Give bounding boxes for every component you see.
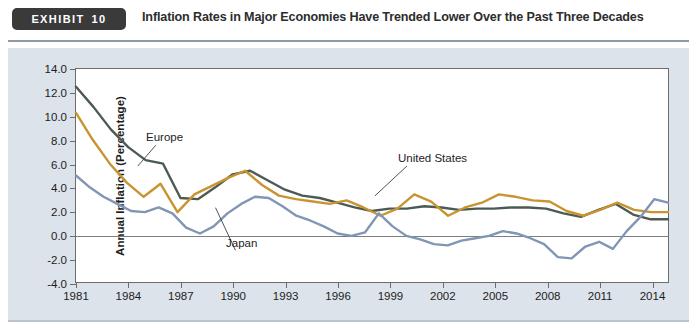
- y-tick-label: 12.0: [45, 87, 76, 99]
- x-tick-mark: [181, 282, 182, 288]
- x-tick-mark: [128, 282, 129, 288]
- x-tick-mark: [548, 282, 549, 288]
- x-tick-label: 1993: [273, 290, 299, 302]
- x-tick-label: 2014: [640, 290, 666, 302]
- plot-area: Annual Inflation (Percentage) 14.012.010…: [75, 68, 669, 283]
- series-label-europe: Europe: [146, 131, 183, 143]
- x-tick-label: 1987: [168, 290, 194, 302]
- y-tick-label: -2.0: [47, 254, 76, 266]
- x-tick-mark: [600, 282, 601, 288]
- x-tick-mark: [443, 282, 444, 288]
- x-tick-mark: [653, 282, 654, 288]
- leader-line-united-states: [375, 166, 407, 196]
- x-tick-label: 1981: [63, 290, 89, 302]
- series-label-japan: Japan: [226, 237, 257, 249]
- y-tick-label: 2.0: [51, 206, 76, 218]
- y-tick-label: 4.0: [51, 182, 76, 194]
- x-tick-label: 2005: [482, 290, 508, 302]
- y-tick-label: 14.0: [45, 63, 76, 75]
- panel-bottom-rule: [8, 320, 689, 322]
- x-tick-label: 1984: [116, 290, 142, 302]
- y-tick-label: 10.0: [45, 111, 76, 123]
- x-tick-label: 2011: [588, 290, 613, 302]
- series-line-united-states: [76, 113, 668, 216]
- x-tick-label: 2008: [535, 290, 561, 302]
- exhibit-badge-word: EXHIBIT: [31, 13, 84, 25]
- x-tick-label: 1999: [378, 290, 404, 302]
- x-tick-label: 1996: [325, 290, 351, 302]
- x-tick-mark: [338, 282, 339, 288]
- x-tick-mark: [390, 282, 391, 288]
- y-tick-label: 6.0: [51, 159, 76, 171]
- x-tick-mark: [286, 282, 287, 288]
- x-tick-mark: [233, 282, 234, 288]
- x-tick-label: 1990: [220, 290, 246, 302]
- exhibit-badge: EXHIBIT 10: [12, 8, 126, 30]
- series-lines: [76, 69, 668, 282]
- series-line-europe: [76, 87, 668, 220]
- y-tick-label: 8.0: [51, 135, 76, 147]
- exhibit-badge-number: 10: [92, 13, 107, 25]
- series-label-united-states: United States: [398, 152, 467, 164]
- y-tick-label: -4.0: [47, 278, 76, 290]
- chart-panel: Annual Inflation (Percentage) 14.012.010…: [8, 48, 689, 321]
- y-tick-label: 0.0: [51, 230, 76, 242]
- exhibit-header: EXHIBIT 10 Inflation Rates in Major Econ…: [0, 0, 697, 46]
- header-divider: [8, 40, 689, 42]
- exhibit-title: Inflation Rates in Major Economies Have …: [142, 10, 644, 24]
- x-tick-mark: [495, 282, 496, 288]
- x-tick-label: 2002: [430, 290, 456, 302]
- x-tick-mark: [76, 282, 77, 288]
